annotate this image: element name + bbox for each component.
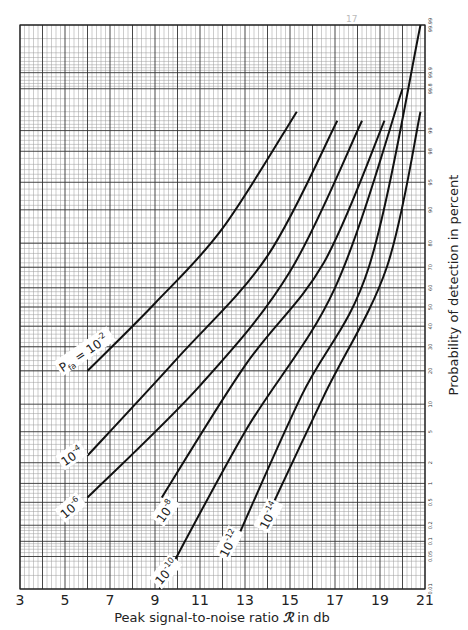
x-tick-label: 5	[61, 592, 70, 608]
x-tick-label: 9	[151, 592, 160, 608]
y-tick-label: 5	[427, 430, 433, 433]
y-tick-label: 0.05	[427, 551, 433, 562]
x-tick-label: 13	[236, 592, 254, 608]
x-axis-tick-labels: 3579111315171921	[16, 592, 434, 608]
y-tick-label: 0.5	[427, 498, 433, 506]
y-tick-label: 20	[427, 368, 433, 374]
svg-text:Pfa = 10-2: Pfa = 10-2	[56, 330, 112, 376]
y-tick-label: 2	[427, 461, 433, 464]
y-tick-label: 50	[427, 304, 433, 310]
y-tick-label: 0.01	[427, 583, 433, 594]
y-tick-label: 0.1	[427, 537, 433, 545]
x-tick-label: 15	[281, 592, 299, 608]
y-tick-label: 60	[427, 285, 433, 291]
x-tick-label: 19	[371, 592, 389, 608]
page-mark: 17	[346, 14, 357, 24]
y-tick-label: 40	[427, 323, 433, 329]
y-tick-label: 70	[427, 264, 433, 270]
x-axis-title: Peak signal-to-noise ratio ℛ in db	[114, 610, 330, 625]
y-tick-label: 0.2	[427, 521, 433, 529]
x-tick-label: 17	[326, 592, 344, 608]
y-tick-label: 30	[427, 344, 433, 350]
y-tick-label: 98	[427, 148, 433, 154]
y-tick-label: 10	[427, 401, 433, 407]
y-axis-title: Probability of detection in percent	[446, 175, 461, 396]
y-tick-label: 99.99	[427, 18, 433, 32]
y-tick-label: 90	[427, 207, 433, 213]
x-tick-label: 7	[106, 592, 115, 608]
x-tick-label: 3	[16, 592, 25, 608]
y-tick-label: 99.9	[427, 67, 433, 78]
curve-10-12	[229, 25, 420, 557]
curve-label-1e-6: 10-6	[54, 492, 86, 523]
y-tick-label: 99	[427, 127, 433, 133]
x-tick-label: 11	[191, 592, 209, 608]
detection-probability-chart: Pfa = 10-2 10-4 10-6 10-8 10-10 10-12 10…	[0, 0, 468, 630]
y-tick-label: 80	[427, 240, 433, 246]
y-tick-label: 95	[427, 179, 433, 185]
y-axis-tick-labels: 0.010.050.10.20.512510203040506070809095…	[427, 18, 433, 595]
y-tick-label: 99.8	[427, 83, 433, 94]
y-tick-label: 1	[427, 482, 433, 485]
